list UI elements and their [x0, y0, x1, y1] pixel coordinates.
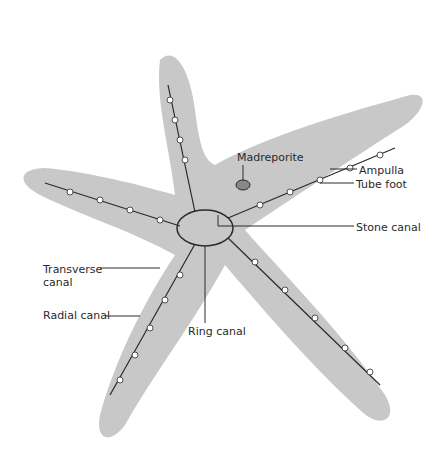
starfish-body [24, 56, 423, 438]
label-madreporite: Madreporite [237, 151, 304, 164]
label-stone-canal: Stone canal [356, 221, 421, 234]
madreporite [236, 180, 250, 190]
label-ring-canal: Ring canal [188, 325, 246, 338]
label-transverse-canal: Transverse canal [43, 263, 102, 289]
label-ampulla: Ampulla [359, 164, 404, 177]
label-tube-foot: Tube foot [356, 178, 407, 191]
starfish-diagram: Madreporite Ampulla Tube foot Stone cana… [0, 0, 431, 451]
label-radial-canal: Radial canal [43, 309, 110, 322]
